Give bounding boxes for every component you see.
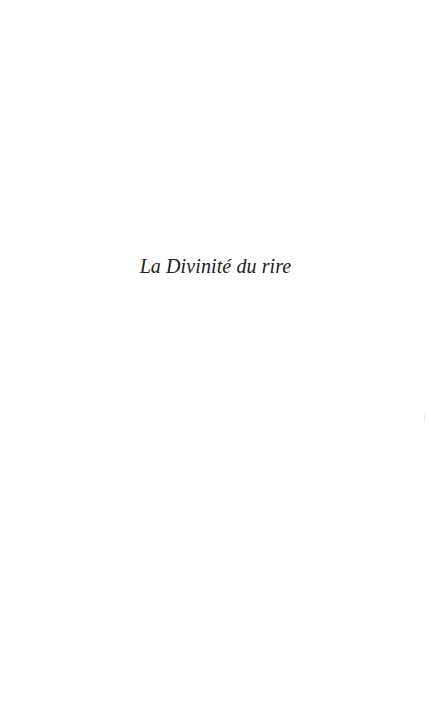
book-page: La Divinité du rire xyxy=(0,0,431,717)
half-title: La Divinité du rire xyxy=(0,252,431,280)
page-edge-mark xyxy=(424,414,425,422)
